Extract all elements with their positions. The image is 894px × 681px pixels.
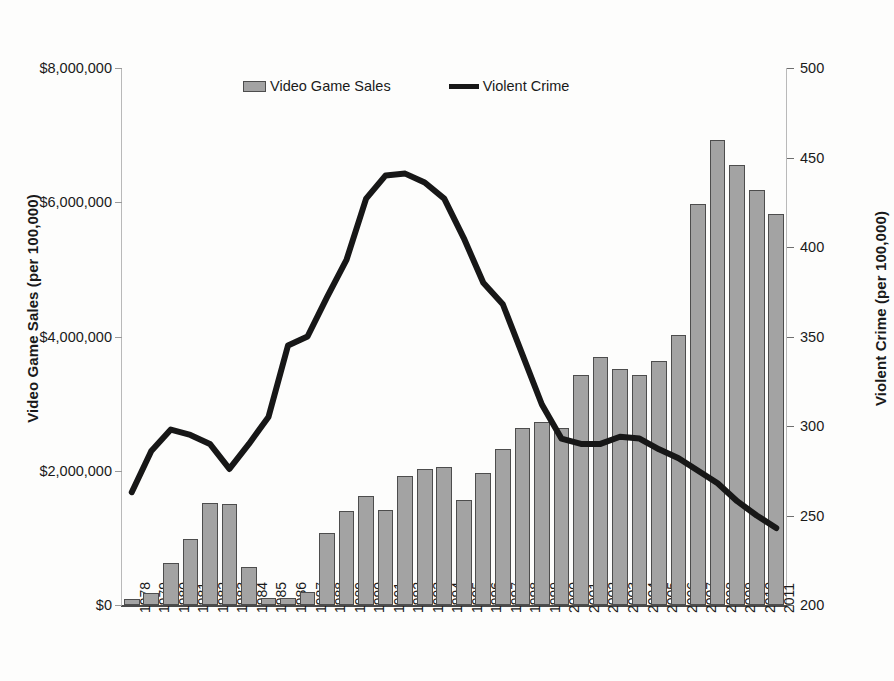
y-axis-left-tick-mark	[115, 605, 122, 606]
y-axis-right-tick-mark	[787, 68, 794, 69]
bar	[124, 599, 140, 605]
bar	[475, 473, 491, 605]
bar	[339, 511, 355, 605]
bar	[495, 449, 511, 605]
y-axis-left-tick-mark	[115, 337, 122, 338]
y-axis-right-tick-label: 450	[800, 150, 824, 166]
bar	[515, 428, 531, 605]
legend-item-video-game-sales: Video Game Sales	[243, 78, 391, 94]
y-axis-right-tick-label: 350	[800, 329, 824, 345]
bar	[671, 335, 687, 605]
bar	[358, 496, 374, 605]
bar	[612, 369, 628, 605]
bar	[163, 563, 179, 605]
y-axis-left-tick-label: $8,000,000	[39, 60, 112, 76]
bar	[690, 204, 706, 605]
y-axis-right-tick-mark	[787, 337, 794, 338]
y-axis-right-title: Violent Crime (per 100,000)	[872, 159, 889, 459]
y-axis-left-tick-label: $4,000,000	[39, 329, 112, 345]
y-axis-left-tick-mark	[115, 68, 122, 69]
bar	[554, 428, 570, 605]
y-axis-right-tick-mark	[787, 516, 794, 517]
legend-label-violent-crime: Violent Crime	[483, 78, 570, 94]
bar	[319, 533, 335, 605]
bar	[222, 504, 238, 605]
legend-item-violent-crime: Violent Crime	[449, 78, 570, 94]
y-axis-left-title: Video Game Sales (per 100,000)	[24, 159, 41, 459]
y-axis-right-tick-label: 250	[800, 508, 824, 524]
bar-swatch-icon	[243, 81, 266, 92]
bar	[143, 593, 159, 605]
bar	[397, 476, 413, 605]
chart-legend: Video Game Sales Violent Crime	[243, 78, 569, 94]
chart-container: Video Game Sales (per 100,000) Violent C…	[0, 0, 894, 681]
bar	[183, 539, 199, 605]
y-axis-right-tick-label: 400	[800, 239, 824, 255]
y-axis-right-tick-label: 500	[800, 60, 824, 76]
y-axis-right-tick-mark	[787, 247, 794, 248]
y-axis-right-tick-label: 200	[800, 597, 824, 613]
bar	[202, 503, 218, 605]
bar	[768, 214, 784, 605]
legend-label-video-game-sales: Video Game Sales	[270, 78, 391, 94]
bar	[573, 375, 589, 605]
bar	[593, 357, 609, 605]
bar	[749, 190, 765, 605]
line-swatch-icon	[449, 84, 479, 89]
bar	[417, 469, 433, 605]
y-axis-right-tick-mark	[787, 158, 794, 159]
bar	[456, 500, 472, 605]
bar	[729, 165, 745, 605]
bar	[261, 598, 277, 605]
bar	[710, 140, 726, 605]
bar	[651, 361, 667, 605]
y-axis-right-tick-mark	[787, 426, 794, 427]
bar	[632, 375, 648, 605]
y-axis-left-tick-label: $6,000,000	[39, 194, 112, 210]
y-axis-left-tick-label: $2,000,000	[39, 463, 112, 479]
bar	[300, 592, 316, 605]
y-axis-left-tick-mark	[115, 202, 122, 203]
y-axis-left-tick-mark	[115, 471, 122, 472]
bar	[378, 510, 394, 605]
bar	[436, 467, 452, 605]
bar	[241, 567, 257, 605]
y-axis-left-tick-label: $0	[96, 597, 112, 613]
y-axis-right-tick-label: 300	[800, 418, 824, 434]
plot-area	[122, 68, 786, 605]
bar	[534, 422, 550, 605]
bar	[280, 598, 296, 605]
